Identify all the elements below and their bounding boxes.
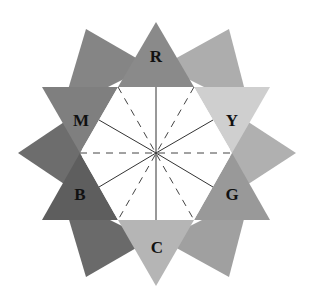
label-g: G bbox=[225, 185, 238, 204]
color-star-diagram: RYGCBM bbox=[0, 0, 312, 297]
label-b: B bbox=[74, 185, 85, 204]
label-m: M bbox=[73, 111, 89, 130]
label-y: Y bbox=[226, 111, 238, 130]
label-r: R bbox=[150, 47, 163, 66]
label-c: C bbox=[151, 238, 163, 257]
